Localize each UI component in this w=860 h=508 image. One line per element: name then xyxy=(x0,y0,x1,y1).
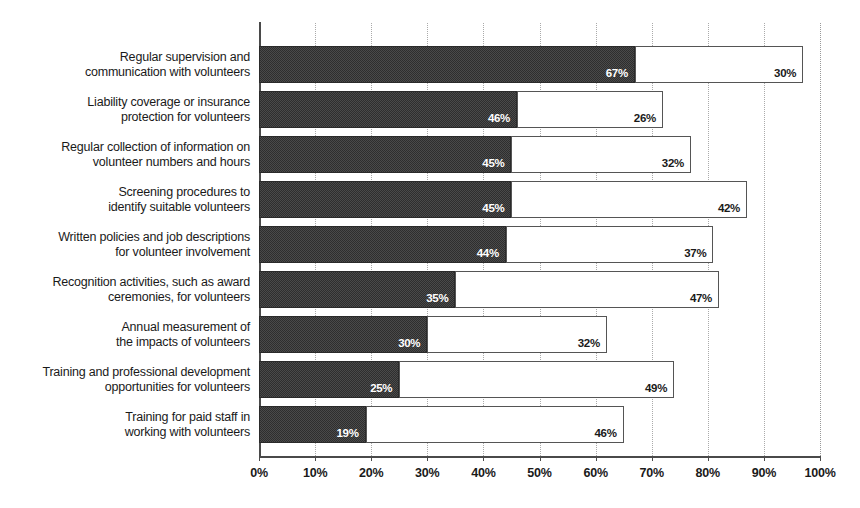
bar-segment-light: 32% xyxy=(511,136,691,173)
bar-segment-light: 42% xyxy=(511,181,747,218)
x-tick-label: 10% xyxy=(303,466,327,480)
x-tick-label: 20% xyxy=(359,466,383,480)
category-label: Annual measurement ofthe impacts of volu… xyxy=(14,320,250,350)
bar-value-label: 32% xyxy=(578,337,600,349)
category-label-line: opportunities for volunteers xyxy=(14,380,250,395)
x-tick-mark xyxy=(315,456,316,461)
x-tick-mark xyxy=(483,456,484,461)
bar-row: Regular collection of information onvolu… xyxy=(0,136,860,173)
x-tick-label: 100% xyxy=(804,466,835,480)
bar-segment-dark: 25% xyxy=(259,361,399,398)
category-label-line: Written policies and job descriptions xyxy=(14,230,250,245)
x-tick-mark xyxy=(540,456,541,461)
bar-row: Recognition activities, such as awardcer… xyxy=(0,271,860,308)
bar-segment-dark: 45% xyxy=(259,181,511,218)
bar-row: Liability coverage or insuranceprotectio… xyxy=(0,91,860,128)
category-label-line: ceremonies, for volunteers xyxy=(14,290,250,305)
bar-segment-dark: 44% xyxy=(259,226,506,263)
category-label-line: Liability coverage or insurance xyxy=(14,95,250,110)
x-tick-label: 50% xyxy=(527,466,551,480)
bar-segment-light: 26% xyxy=(517,91,663,128)
bar-value-label: 45% xyxy=(482,202,504,214)
bar-segment-light: 49% xyxy=(399,361,674,398)
category-label-line: communication with volunteers xyxy=(14,65,250,80)
bar-value-label: 49% xyxy=(645,382,667,394)
bar-row: Screening procedures toidentify suitable… xyxy=(0,181,860,218)
x-tick-mark xyxy=(371,456,372,461)
bar-row: Written policies and job descriptionsfor… xyxy=(0,226,860,263)
category-label-line: volunteer numbers and hours xyxy=(14,155,250,170)
category-label-line: Training and professional development xyxy=(14,365,250,380)
bar-row: Training for paid staff inworking with v… xyxy=(0,406,860,443)
bar-value-label: 44% xyxy=(477,247,499,259)
x-tick-mark xyxy=(708,456,709,461)
bar-value-label: 30% xyxy=(398,337,420,349)
bar-segment-light: 47% xyxy=(455,271,719,308)
category-label-line: identify suitable volunteers xyxy=(14,200,250,215)
x-tick-label: 30% xyxy=(415,466,439,480)
category-label-line: protection for volunteers xyxy=(14,110,250,125)
x-tick-mark xyxy=(652,456,653,461)
x-tick-mark xyxy=(596,456,597,461)
bar-value-label: 26% xyxy=(634,112,656,124)
category-label-line: the impacts of volunteers xyxy=(14,335,250,350)
x-tick-mark xyxy=(259,456,260,461)
category-label: Screening procedures toidentify suitable… xyxy=(14,185,250,215)
category-label-line: Screening procedures to xyxy=(14,185,250,200)
x-tick-label: 60% xyxy=(583,466,607,480)
category-label-line: Annual measurement of xyxy=(14,320,250,335)
category-label: Regular supervision andcommunication wit… xyxy=(14,50,250,80)
bar-segment-dark: 30% xyxy=(259,316,427,353)
x-tick-label: 40% xyxy=(471,466,495,480)
stacked-bar-chart: Regular supervision andcommunication wit… xyxy=(0,0,860,508)
category-label-line: Regular collection of information on xyxy=(14,140,250,155)
bar-row: Regular supervision andcommunication wit… xyxy=(0,46,860,83)
x-tick-label: 80% xyxy=(696,466,720,480)
category-label: Training and professional developmentopp… xyxy=(14,365,250,395)
bar-value-label: 37% xyxy=(684,247,706,259)
bar-value-label: 19% xyxy=(336,427,358,439)
bar-segment-light: 32% xyxy=(427,316,607,353)
bar-segment-light: 30% xyxy=(635,46,803,83)
bar-value-label: 67% xyxy=(606,67,628,79)
category-label: Liability coverage or insuranceprotectio… xyxy=(14,95,250,125)
category-label-line: working with volunteers xyxy=(14,425,250,440)
category-label: Written policies and job descriptionsfor… xyxy=(14,230,250,260)
x-tick-label: 70% xyxy=(639,466,663,480)
category-label-line: Regular supervision and xyxy=(14,50,250,65)
x-tick-label: 0% xyxy=(250,466,268,480)
bar-segment-dark: 45% xyxy=(259,136,511,173)
x-tick-mark xyxy=(764,456,765,461)
bar-value-label: 46% xyxy=(488,112,510,124)
bar-segment-dark: 67% xyxy=(259,46,635,83)
bar-value-label: 42% xyxy=(718,202,740,214)
category-label-line: for volunteer involvement xyxy=(14,245,250,260)
bar-value-label: 30% xyxy=(774,67,796,79)
bar-segment-dark: 35% xyxy=(259,271,455,308)
bar-row: Training and professional developmentopp… xyxy=(0,361,860,398)
bar-row: Annual measurement ofthe impacts of volu… xyxy=(0,316,860,353)
category-label-line: Recognition activities, such as award xyxy=(14,275,250,290)
bar-value-label: 46% xyxy=(595,427,617,439)
bar-value-label: 35% xyxy=(426,292,448,304)
category-label: Training for paid staff inworking with v… xyxy=(14,410,250,440)
bar-value-label: 45% xyxy=(482,157,504,169)
x-tick-mark xyxy=(427,456,428,461)
bar-segment-light: 37% xyxy=(506,226,714,263)
bar-value-label: 25% xyxy=(370,382,392,394)
category-label: Recognition activities, such as awardcer… xyxy=(14,275,250,305)
bar-value-label: 32% xyxy=(662,157,684,169)
category-label-line: Training for paid staff in xyxy=(14,410,250,425)
bar-segment-dark: 19% xyxy=(259,406,366,443)
bar-value-label: 47% xyxy=(690,292,712,304)
x-tick-mark xyxy=(820,456,821,461)
x-tick-label: 90% xyxy=(752,466,776,480)
category-label: Regular collection of information onvolu… xyxy=(14,140,250,170)
bar-segment-dark: 46% xyxy=(259,91,517,128)
bar-segment-light: 46% xyxy=(366,406,624,443)
